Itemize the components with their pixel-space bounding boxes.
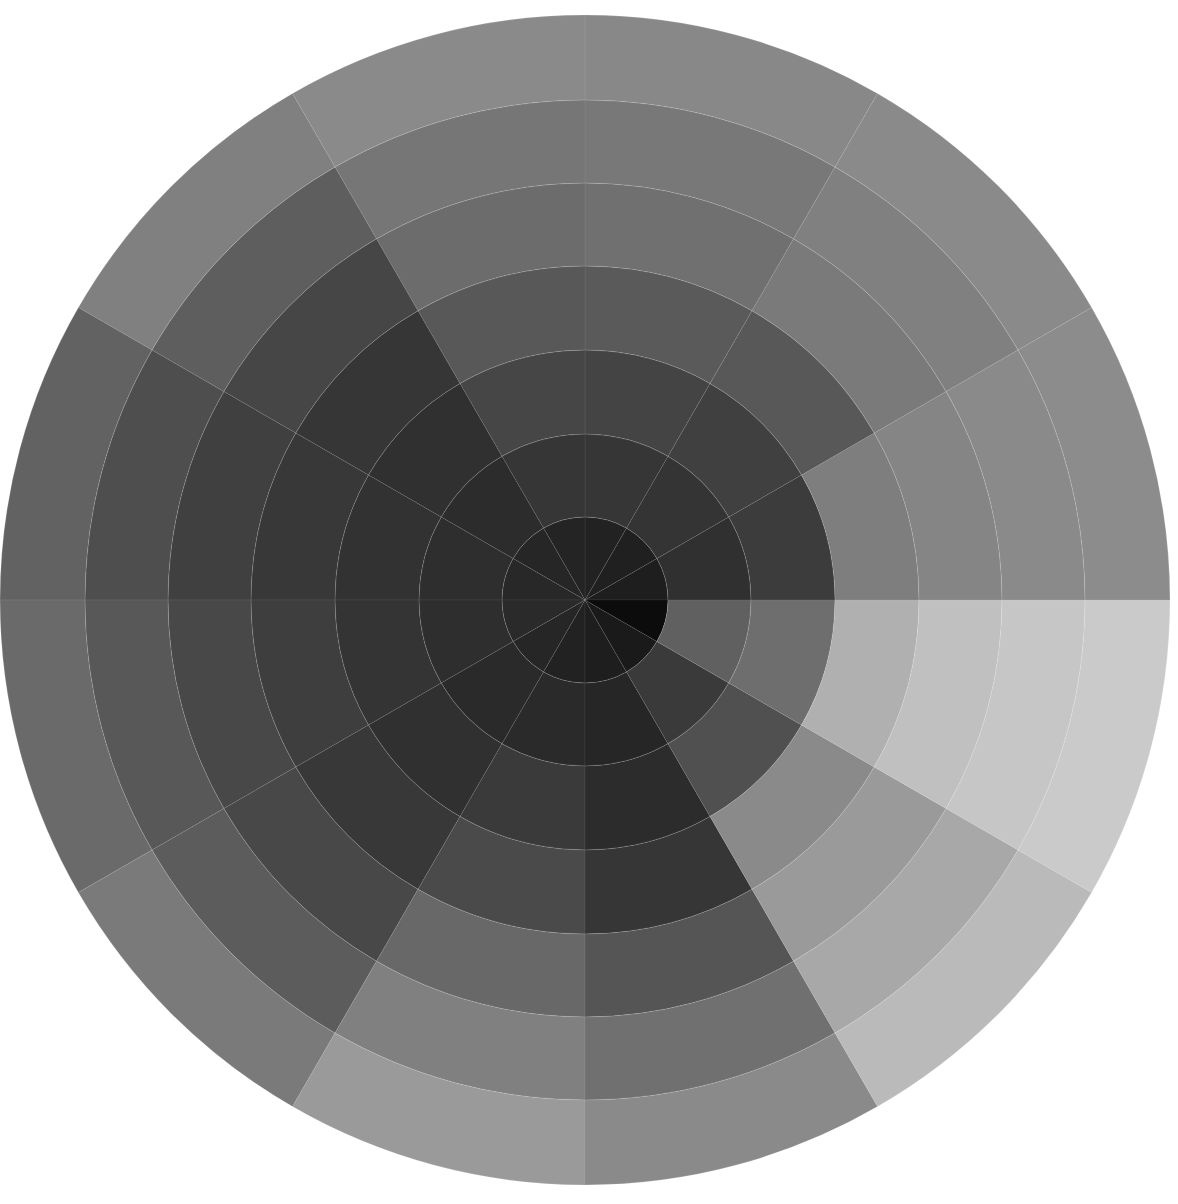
tonal-wheel xyxy=(0,0,1178,1204)
artwork-canvas xyxy=(0,0,1178,1204)
wheel-cells xyxy=(0,15,1170,1185)
